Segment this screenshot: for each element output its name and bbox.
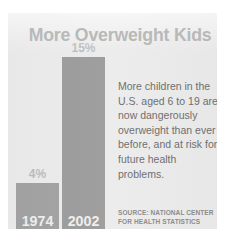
bar-category-label-1974: 1974 bbox=[17, 213, 58, 228]
bar-value-label-1974: 4% bbox=[16, 168, 59, 181]
bar-category-label-2002: 2002 bbox=[63, 213, 104, 228]
page-title: More Overweight Kids bbox=[29, 24, 206, 45]
bar-column-1974: 4% 1974 bbox=[16, 48, 59, 229]
source-note: SOURCE: NATIONAL CENTER FOR HEALTH STATI… bbox=[118, 209, 217, 226]
bar-column-2002: 15% 2002 bbox=[62, 48, 105, 229]
infographic-card: More Overweight Kids 4% 1974 15% 2002 Mo… bbox=[8, 13, 217, 229]
bar-chart: 4% 1974 15% 2002 bbox=[16, 48, 108, 229]
infographic-root: More Overweight Kids 4% 1974 15% 2002 Mo… bbox=[0, 0, 225, 244]
bar-2002: 2002 bbox=[62, 57, 105, 229]
body-copy: More children in the U.S. aged 6 to 19 a… bbox=[118, 79, 217, 181]
bar-1974: 1974 bbox=[16, 183, 59, 229]
body-paragraph: More children in the U.S. aged 6 to 19 a… bbox=[118, 79, 217, 181]
